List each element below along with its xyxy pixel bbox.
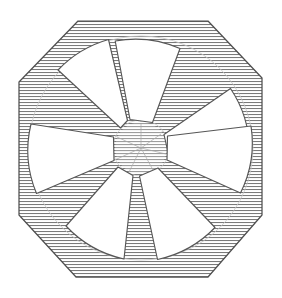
center-hub [115,122,167,174]
octagon-fan-drawing [0,0,282,298]
figure-root: Octagonal hatched plate with seven radia… [0,0,282,298]
